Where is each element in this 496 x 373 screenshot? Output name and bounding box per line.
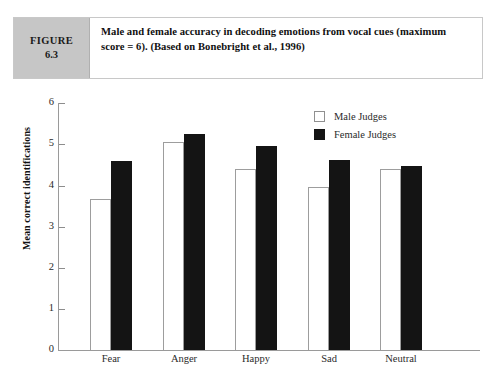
bar-female-anger — [184, 134, 205, 350]
bar-female-happy — [256, 146, 277, 350]
y-tick-mark-6 — [59, 103, 65, 104]
bar-male-anger — [163, 142, 184, 350]
legend-swatch-open-square-icon — [314, 111, 325, 122]
x-axis-label-anger: Anger — [149, 353, 219, 364]
y-tick-mark-2 — [59, 268, 65, 269]
x-axis-label-fear: Fear — [76, 353, 146, 364]
x-axis-label-neutral: Neutral — [366, 353, 436, 364]
legend-label-female: Female Judges — [334, 129, 396, 140]
bar-chart: Mean correct identifications 6 5 4 3 2 1… — [0, 0, 496, 373]
y-tick-label-3: 3 — [36, 220, 54, 231]
y-tick-label-1: 1 — [36, 302, 54, 313]
y-tick-mark-3 — [59, 227, 65, 228]
bar-female-neutral — [401, 166, 422, 350]
y-tick-label-0: 0 — [36, 343, 54, 354]
legend-item-male: Male Judges — [314, 107, 396, 125]
legend-item-female: Female Judges — [314, 125, 396, 143]
y-tick-label-4: 4 — [36, 179, 54, 190]
y-tick-label-6: 6 — [36, 96, 54, 107]
y-tick-mark-1 — [59, 309, 65, 310]
chart-legend: Male Judges Female Judges — [314, 107, 396, 143]
y-tick-label-5: 5 — [36, 137, 54, 148]
x-axis-line — [58, 350, 480, 351]
legend-swatch-filled-square-icon — [314, 129, 325, 140]
y-tick-mark-5 — [59, 144, 65, 145]
bar-male-happy — [235, 169, 256, 350]
bar-female-sad — [329, 160, 350, 350]
x-axis-label-sad: Sad — [294, 353, 364, 364]
y-axis-title: Mean correct identifications — [21, 114, 32, 264]
legend-label-male: Male Judges — [334, 111, 387, 122]
bar-female-fear — [111, 161, 132, 350]
y-tick-label-2: 2 — [36, 261, 54, 272]
bar-male-fear — [90, 199, 111, 350]
x-axis-label-happy: Happy — [221, 353, 291, 364]
bar-male-sad — [308, 187, 329, 350]
y-tick-mark-4 — [59, 186, 65, 187]
bar-male-neutral — [380, 169, 401, 350]
